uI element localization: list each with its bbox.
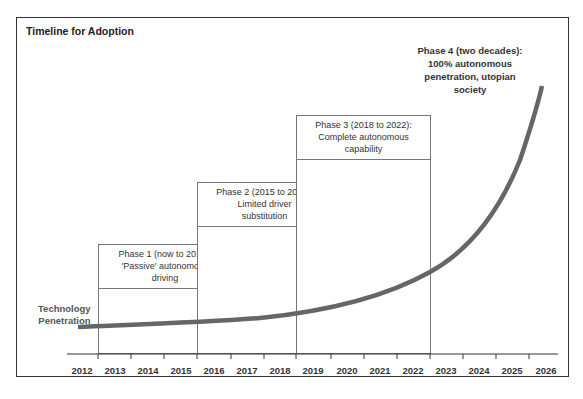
year-label-2019: 2019	[297, 365, 329, 376]
plot-area	[0, 0, 583, 399]
year-label-2018: 2018	[264, 365, 296, 376]
year-label-2020: 2020	[331, 365, 363, 376]
year-label-2014: 2014	[132, 365, 164, 376]
x-axis-ticks	[98, 354, 529, 359]
year-label-2016: 2016	[198, 365, 230, 376]
year-label-2017: 2017	[231, 365, 263, 376]
year-label-2013: 2013	[99, 365, 131, 376]
year-label-2023: 2023	[430, 365, 462, 376]
year-label-2026: 2026	[530, 365, 562, 376]
adoption-curve	[78, 86, 542, 327]
year-label-2015: 2015	[165, 365, 197, 376]
year-label-2012: 2012	[66, 365, 98, 376]
year-label-2021: 2021	[364, 365, 396, 376]
year-label-2024: 2024	[463, 365, 495, 376]
year-label-2022: 2022	[397, 365, 429, 376]
year-label-2025: 2025	[496, 365, 528, 376]
